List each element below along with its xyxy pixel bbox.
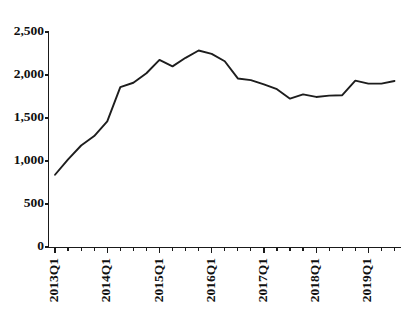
- y-tick-label: 2,000: [14, 66, 45, 81]
- x-tick-label: 2018Q1: [307, 258, 322, 303]
- x-tick-label: 2019Q1: [359, 258, 374, 303]
- x-tick-label: 2015Q1: [151, 258, 166, 303]
- line-chart-figure: 05001,0001,5002,0002,500 2013Q12014Q1201…: [0, 0, 417, 315]
- y-tick-label: 1,000: [14, 152, 45, 167]
- chart-canvas: 05001,0001,5002,0002,500 2013Q12014Q1201…: [0, 0, 417, 315]
- x-tick-label: 2014Q1: [98, 258, 113, 303]
- y-tick-label: 2,500: [14, 23, 45, 38]
- y-tick-label: 0: [37, 238, 44, 253]
- x-tick-label: 2017Q1: [255, 258, 270, 303]
- y-tick-label: 1,500: [14, 109, 45, 124]
- x-tick-label: 2013Q1: [46, 258, 61, 303]
- y-tick-label: 500: [24, 195, 45, 210]
- x-tick-label: 2016Q1: [203, 258, 218, 303]
